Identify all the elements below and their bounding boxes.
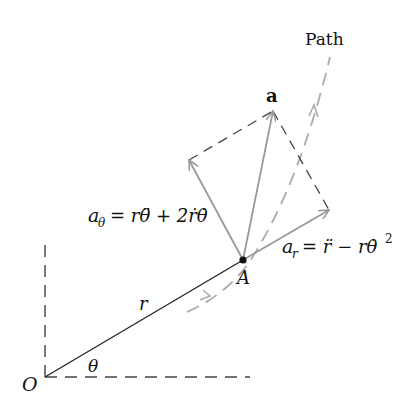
parallelogram-top-right (273, 111, 329, 210)
a-r-subscript: r (292, 247, 299, 261)
point-a-dot (239, 256, 246, 263)
a-r-superscript: 2 (385, 232, 393, 246)
angle-label: θ (88, 356, 98, 376)
a-theta-expression: = rθ̈ + 2ṙθ̇ (110, 205, 208, 226)
parallelogram-top-left (189, 111, 273, 160)
point-a-label: A (235, 267, 250, 288)
radius-label: r (139, 293, 149, 314)
a-vector (243, 111, 273, 260)
a-r-equation: a r = r̈ − rθ̇ 2 (282, 232, 393, 261)
path-label: Path (305, 29, 344, 49)
acceleration-label: a (266, 85, 278, 106)
a-theta-subscript: θ (98, 216, 106, 230)
origin-label: O (22, 373, 38, 395)
a-r-expression: = r̈ − rθ̇ (302, 236, 378, 257)
a-theta-equation: a θ = rθ̈ + 2ṙθ̇ (88, 204, 208, 230)
radius-line (45, 260, 243, 377)
path-arrow-lower-icon (200, 290, 210, 300)
diagram-canvas: Path a A O r θ a θ = rθ̈ + 2ṙθ̇ a r = r̈… (0, 0, 417, 417)
